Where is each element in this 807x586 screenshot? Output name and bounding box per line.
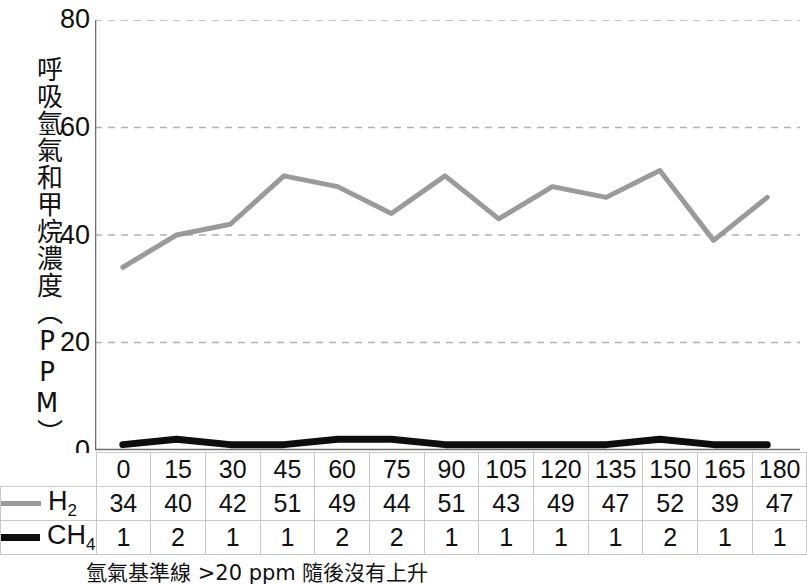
column-header-75: 75 bbox=[369, 453, 424, 487]
legend-label-h2: H2 bbox=[48, 488, 77, 519]
cell-ch4-90: 1 bbox=[424, 521, 479, 555]
column-header-180: 180 bbox=[752, 453, 807, 487]
cell-h2-75: 44 bbox=[369, 487, 424, 521]
cell-ch4-0: 1 bbox=[96, 521, 151, 555]
data-table: 0153045607590105120135150165180H23440425… bbox=[0, 452, 807, 555]
y-tick-60: 60 bbox=[44, 114, 90, 141]
column-header-165: 165 bbox=[698, 453, 753, 487]
column-header-150: 150 bbox=[643, 453, 698, 487]
cell-h2-30: 42 bbox=[205, 487, 260, 521]
series-line-h2 bbox=[123, 171, 767, 268]
column-header-0: 0 bbox=[96, 453, 151, 487]
legend-swatch-h2-icon bbox=[1, 501, 41, 506]
series-line-ch4 bbox=[123, 439, 767, 444]
cell-h2-105: 43 bbox=[479, 487, 534, 521]
cell-ch4-165: 1 bbox=[698, 521, 753, 555]
line-chart-svg bbox=[95, 20, 800, 452]
chart-footnote: 氫氣基準線 >20 ppm 隨後沒有上升 bbox=[86, 556, 428, 586]
column-header-45: 45 bbox=[260, 453, 315, 487]
cell-h2-0: 34 bbox=[96, 487, 151, 521]
y-tick-80: 80 bbox=[44, 6, 90, 33]
cell-ch4-180: 1 bbox=[752, 521, 807, 555]
cell-ch4-135: 1 bbox=[588, 521, 643, 555]
legend-label-ch4: CH4 bbox=[47, 522, 95, 553]
data-table-wrapper: 0153045607590105120135150165180H23440425… bbox=[0, 452, 805, 556]
cell-h2-120: 49 bbox=[534, 487, 589, 521]
table-corner-cell bbox=[1, 453, 97, 487]
cell-ch4-30: 1 bbox=[205, 521, 260, 555]
legend-cell-h2[interactable]: H2 bbox=[1, 487, 97, 521]
column-header-135: 135 bbox=[588, 453, 643, 487]
column-header-90: 90 bbox=[424, 453, 479, 487]
plot-area bbox=[95, 20, 800, 450]
table-row: H234404251494451434947523947 bbox=[1, 487, 807, 521]
column-header-30: 30 bbox=[205, 453, 260, 487]
cell-h2-180: 47 bbox=[752, 487, 807, 521]
y-axis-tick-labels: 80 60 40 20 0 bbox=[40, 0, 90, 470]
y-tick-40: 40 bbox=[44, 222, 90, 249]
table-row: CH41211221111211 bbox=[1, 521, 807, 555]
cell-ch4-45: 1 bbox=[260, 521, 315, 555]
cell-ch4-120: 1 bbox=[534, 521, 589, 555]
cell-ch4-60: 2 bbox=[315, 521, 370, 555]
legend-cell-ch4[interactable]: CH4 bbox=[1, 521, 97, 555]
cell-h2-15: 40 bbox=[151, 487, 206, 521]
cell-ch4-15: 2 bbox=[151, 521, 206, 555]
cell-ch4-105: 1 bbox=[479, 521, 534, 555]
column-header-120: 120 bbox=[534, 453, 589, 487]
cell-h2-90: 51 bbox=[424, 487, 479, 521]
column-header-105: 105 bbox=[479, 453, 534, 487]
cell-h2-135: 47 bbox=[588, 487, 643, 521]
y-tick-20: 20 bbox=[44, 329, 90, 356]
cell-h2-165: 39 bbox=[698, 487, 753, 521]
cell-ch4-75: 2 bbox=[369, 521, 424, 555]
cell-ch4-150: 2 bbox=[643, 521, 698, 555]
cell-h2-45: 51 bbox=[260, 487, 315, 521]
legend-swatch-ch4-icon bbox=[1, 534, 40, 541]
column-header-15: 15 bbox=[151, 453, 206, 487]
column-header-60: 60 bbox=[315, 453, 370, 487]
cell-h2-150: 52 bbox=[643, 487, 698, 521]
table-header-row: 0153045607590105120135150165180 bbox=[1, 453, 807, 487]
cell-h2-60: 49 bbox=[315, 487, 370, 521]
